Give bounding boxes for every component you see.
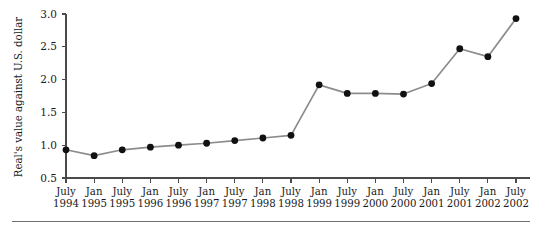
x-axis [66, 178, 530, 183]
x-tick-label-year: 1994 [53, 198, 79, 209]
x-tick-label-month: Jan [141, 186, 159, 197]
x-tick-label-month: July [224, 186, 245, 197]
x-tick-label-month: July [55, 186, 76, 197]
data-point [288, 132, 295, 139]
data-point-markers [63, 15, 520, 159]
x-tick-label-year: 1997 [222, 198, 248, 209]
x-tick-label-month: July [505, 186, 526, 197]
x-tick-label-year: 1995 [109, 198, 135, 209]
x-tick-label-year: 2001 [447, 198, 473, 209]
data-point [484, 53, 491, 60]
x-tick-label-year: 1999 [334, 198, 360, 209]
data-point [259, 135, 266, 142]
x-tick-label-month: Jan [197, 186, 215, 197]
y-axis [62, 14, 66, 179]
y-tick-label: 2.5 [40, 40, 57, 52]
x-tick-label-month: July [393, 186, 414, 197]
y-tick-label: 3.0 [40, 8, 57, 20]
x-tick-label-month: July [168, 186, 189, 197]
x-tick-label-year: 2000 [362, 198, 388, 209]
y-axis-title: Real's value against U.S. dollar [13, 17, 24, 177]
x-tick-label-year: 1997 [194, 198, 220, 209]
data-point [203, 140, 210, 147]
x-tick-label-year: 1996 [137, 198, 163, 209]
y-tick-label: 2.0 [40, 73, 57, 85]
x-tick-label-year: 1999 [306, 198, 332, 209]
data-point [513, 15, 520, 22]
x-tick-label-month: Jan [366, 186, 384, 197]
data-point [428, 80, 435, 87]
x-tick-label-year: 2001 [419, 198, 445, 209]
x-tick-label-month: Jan [254, 186, 272, 197]
data-point [400, 91, 407, 98]
x-tick-label-month: Jan [85, 186, 103, 197]
chart-figure: 0.51.01.52.02.53.0 July1994Jan1995July19… [0, 0, 556, 230]
y-tick-label: 1.5 [40, 106, 57, 118]
data-point [456, 45, 463, 52]
x-tick-labels: July1994Jan1995July1995Jan1996July1996Ja… [53, 186, 529, 209]
x-tick-label-month: Jan [422, 186, 440, 197]
y-tick-label: 1.0 [40, 139, 57, 151]
data-point [372, 90, 379, 97]
x-tick-label-month: July [280, 186, 301, 197]
x-tick-label-month: July [449, 186, 470, 197]
y-tick-label: 0.5 [40, 172, 57, 184]
x-tick-label-month: Jan [310, 186, 328, 197]
y-tick-labels: 0.51.01.52.02.53.0 [40, 8, 57, 184]
line-chart: 0.51.01.52.02.53.0 July1994Jan1995July19… [0, 0, 556, 230]
x-tick-label-year: 2000 [391, 198, 417, 209]
x-tick-label-month: July [111, 186, 132, 197]
data-point [91, 152, 98, 159]
data-point [147, 144, 154, 151]
x-tick-label-month: Jan [479, 186, 497, 197]
x-tick-label-year: 1998 [250, 198, 276, 209]
x-tick-label-year: 1996 [166, 198, 192, 209]
x-tick-label-year: 1998 [278, 198, 304, 209]
x-tick-label-month: July [336, 186, 357, 197]
x-tick-label-year: 2002 [475, 198, 501, 209]
data-point [344, 90, 351, 97]
x-tick-label-year: 1995 [81, 198, 107, 209]
data-point [119, 146, 126, 153]
data-point [175, 142, 182, 149]
data-point [316, 81, 323, 88]
data-point [63, 146, 70, 153]
x-tick-label-year: 2002 [503, 198, 529, 209]
data-point [231, 137, 238, 144]
